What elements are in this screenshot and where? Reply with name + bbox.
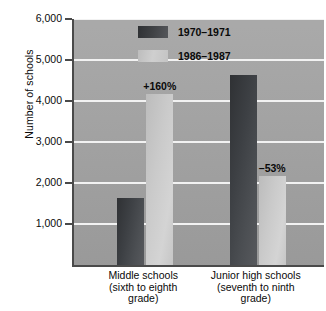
legend-swatch-icon	[138, 50, 168, 62]
gridline	[74, 19, 324, 20]
bar-value-label: –53%	[247, 162, 298, 174]
y-axis-tick-mark	[65, 100, 72, 102]
legend-label: 1986–1987	[178, 50, 231, 62]
category-label-line: grade)	[197, 293, 315, 305]
legend-label: 1970–1971	[178, 26, 231, 38]
y-axis-title: Number of schools	[23, 9, 35, 179]
legend-swatch-icon	[138, 26, 168, 38]
y-axis-tick-mark	[65, 141, 72, 143]
plot-area: +160%–53% 1970–19711986–1987	[72, 19, 324, 265]
y-axis-tick-label: 2,000	[8, 177, 62, 187]
gridline	[74, 182, 324, 184]
bar-series1[interactable]	[117, 198, 144, 265]
y-axis-tick-mark	[65, 223, 72, 225]
category-label: Junior high schools(seventh to ninthgrad…	[197, 270, 315, 305]
y-axis-tick-label: 6,000	[8, 13, 62, 23]
gridline	[74, 141, 324, 143]
legend: 1970–19711986–1987	[138, 23, 231, 71]
gridline	[74, 100, 324, 102]
category-label-line: Middle schools	[84, 270, 202, 282]
y-axis-tick-label: 3,000	[8, 136, 62, 146]
y-axis-tick-label: 4,000	[8, 95, 62, 105]
category-label: Middle schools(sixth to eighthgrade)	[84, 270, 202, 305]
legend-item[interactable]: 1986–1987	[138, 47, 231, 65]
x-axis-line	[72, 265, 324, 267]
bar-series2[interactable]	[259, 176, 286, 265]
bar-series2[interactable]	[146, 94, 173, 265]
y-axis-tick-mark	[65, 59, 72, 61]
legend-item[interactable]: 1970–1971	[138, 23, 231, 41]
y-axis-tick-mark	[65, 182, 72, 184]
bar-value-label: +160%	[134, 80, 185, 92]
gridline	[74, 223, 324, 225]
y-axis-tick-label: 1,000	[8, 218, 62, 228]
y-axis-tick-mark	[65, 18, 72, 20]
category-label-line: Junior high schools	[197, 270, 315, 282]
category-label-line: grade)	[84, 293, 202, 305]
y-axis-tick-label: 5,000	[8, 54, 62, 64]
bar-chart-figure: Number of schools +160%–53% 1970–1971198…	[0, 0, 326, 311]
